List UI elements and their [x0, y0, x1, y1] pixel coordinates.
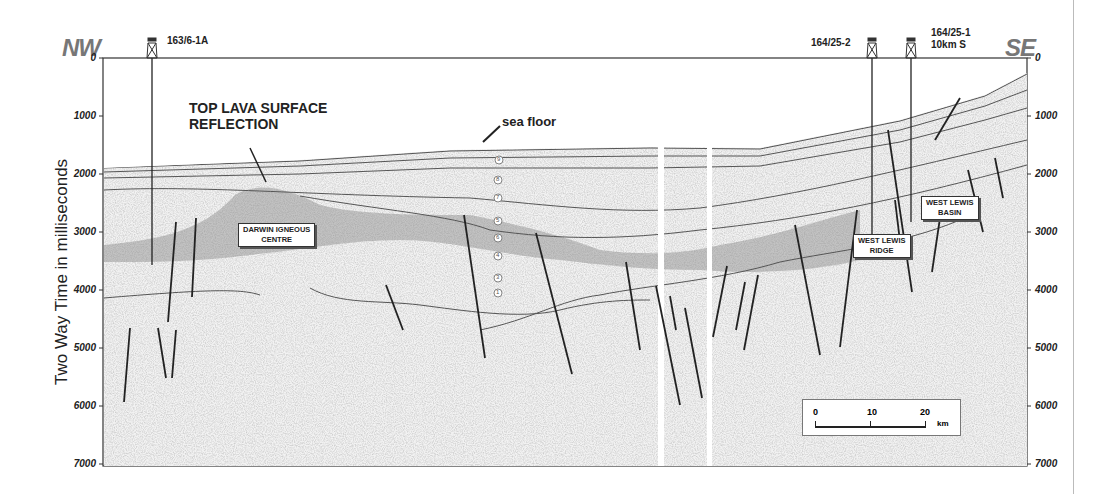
direction-se: SE [1005, 34, 1035, 62]
box-line: WEST LEWIS [926, 198, 974, 208]
scale-bar: 0 10 20 km [802, 399, 961, 436]
well-label-164-25-2: 164/25-2 [811, 37, 850, 49]
y-tick: 0 [1035, 52, 1041, 63]
y-tick: 1000 [1035, 110, 1057, 121]
horizon-marker: 4 [496, 252, 499, 258]
well-note: 10km S [931, 39, 970, 51]
scale-tick-mark [815, 421, 816, 427]
derrick-icons [147, 38, 916, 58]
west-lewis-basin-label: WEST LEWIS BASIN [921, 196, 979, 220]
y-tick: 2000 [74, 168, 96, 179]
scale-tick-mark [925, 421, 926, 427]
y-tick: 6000 [1035, 400, 1057, 411]
top-lava-line2: REFLECTION [189, 116, 327, 132]
y-tick: 3000 [1035, 226, 1057, 237]
horizon-marker: 3 [496, 274, 499, 280]
well-name: 164/25-1 [931, 27, 970, 39]
box-line: BASIN [926, 208, 974, 218]
scale-tick: 20 [920, 407, 930, 417]
well-label-164-25-1: 164/25-1 10km S [931, 27, 970, 51]
scale-tick: 10 [867, 407, 877, 417]
y-tick: 3000 [74, 226, 96, 237]
y-tick: 4000 [1035, 284, 1057, 295]
top-lava-annotation: TOP LAVA SURFACE REFLECTION [189, 100, 327, 132]
horizon-marker: 1 [496, 289, 499, 295]
scale-tick: 0 [813, 407, 818, 417]
west-lewis-ridge-label: WEST LEWIS RIDGE [853, 234, 911, 258]
y-tick: 1000 [74, 110, 96, 121]
horizon-marker: 5 [496, 217, 499, 223]
y-tick: 7000 [74, 458, 96, 469]
y-tick: 4000 [74, 284, 96, 295]
well-label-163-6-1a: 163/6-1A [167, 35, 208, 47]
y-tick: 0 [90, 52, 96, 63]
box-line: RIDGE [858, 246, 906, 256]
darwin-igneous-centre-label: DARWIN IGNEOUS CENTRE [238, 223, 315, 247]
y-tick: 5000 [74, 342, 96, 353]
horizon-marker: 7 [496, 194, 499, 200]
y-tick: 6000 [74, 400, 96, 411]
scale-tick-mark [870, 421, 871, 427]
page-divider [1073, 0, 1074, 494]
box-line: CENTRE [243, 235, 310, 245]
horizon-marker: 9 [497, 156, 500, 162]
y-tick: 2000 [1035, 168, 1057, 179]
scale-unit: km [937, 419, 949, 428]
y-tick: 7000 [1035, 458, 1057, 469]
top-lava-line1: TOP LAVA SURFACE [189, 100, 327, 116]
y-axis-title: Two Way Time in milliseconds [52, 159, 72, 385]
y-tick: 5000 [1035, 342, 1057, 353]
box-line: WEST LEWIS [858, 236, 906, 246]
horizon-marker: 6 [496, 234, 499, 240]
box-line: DARWIN IGNEOUS [243, 225, 310, 235]
sea-floor-annotation: sea floor [502, 114, 556, 129]
horizon-marker: 8 [496, 176, 499, 182]
